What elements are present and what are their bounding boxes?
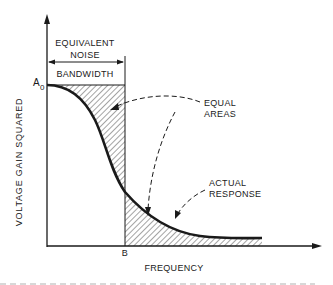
- noise-label: NOISE: [70, 50, 100, 60]
- equal-areas-leader-upper: [115, 96, 200, 107]
- bandwidth-arrow-right-icon: [117, 60, 124, 65]
- x-axis-label: FREQUENCY: [144, 263, 203, 273]
- bandwidth-arrow-left-icon: [48, 60, 55, 65]
- hatched-area-rectangle-excess: [47, 85, 125, 192]
- equal-label: EQUAL: [204, 98, 236, 108]
- a0-subscript: 0: [40, 83, 45, 92]
- actual-response-arrowhead-icon: [175, 210, 181, 219]
- actual-label: ACTUAL: [209, 178, 246, 188]
- bandwidth-label: BANDWIDTH: [56, 69, 113, 79]
- response-label: RESPONSE: [209, 189, 261, 199]
- noise-bandwidth-diagram: EQUIVALENT NOISE BANDWIDTH A 0 EQUAL ARE…: [0, 0, 333, 285]
- a0-label: A: [33, 77, 40, 88]
- equivalent-label: EQUIVALENT: [55, 38, 115, 48]
- x-axis-arrow-icon: [312, 243, 322, 249]
- b-label: B: [122, 248, 128, 258]
- actual-response-leader: [177, 190, 205, 215]
- equal-areas-leader-lower: [148, 112, 175, 210]
- y-axis-arrow-icon: [44, 14, 50, 24]
- areas-label: AREAS: [204, 109, 236, 119]
- y-axis-label: VOLTAGE GAIN SQUARED: [14, 98, 24, 227]
